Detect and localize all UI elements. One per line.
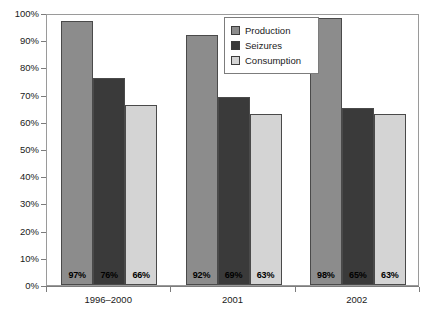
legend-swatch-icon [231, 26, 240, 35]
bar-value-label: 69% [219, 271, 249, 280]
x-axis-category-label: 1996–2000 [48, 295, 168, 305]
bar: 66% [125, 105, 157, 285]
y-axis-tick-label: 50% [1, 145, 39, 155]
bar-value-label: 98% [311, 271, 341, 280]
bar-value-label: 63% [251, 271, 281, 280]
y-axis-tick-label: 80% [1, 63, 39, 73]
y-axis-tick-label: 90% [1, 36, 39, 46]
bar: 63% [250, 114, 282, 285]
bar: 97% [61, 21, 93, 285]
y-axis-tick-label: 20% [1, 227, 39, 237]
legend-item-label: Production [245, 26, 290, 36]
bar: 76% [93, 78, 125, 285]
x-axis-tick [295, 287, 296, 292]
bar-value-label: 97% [62, 271, 92, 280]
x-axis-category-label: 2002 [297, 295, 417, 305]
bar: 63% [374, 114, 406, 285]
bar-value-label: 63% [375, 271, 405, 280]
x-axis-tick [170, 287, 171, 292]
legend-item: Seizures [231, 38, 311, 53]
legend-swatch-icon [231, 41, 240, 50]
legend-item: Consumption [231, 53, 311, 68]
y-axis-tick-label: 100% [1, 9, 39, 19]
bar-value-label: 92% [187, 271, 217, 280]
x-axis-line [46, 286, 419, 287]
y-axis-tick-label: 60% [1, 118, 39, 128]
y-axis-tick-label: 0% [1, 281, 39, 291]
chart-legend: ProductionSeizuresConsumption [224, 17, 319, 74]
legend-item-label: Seizures [245, 41, 282, 51]
bar: 69% [218, 97, 250, 285]
legend-swatch-icon [231, 56, 240, 65]
y-axis-tick-label: 40% [1, 172, 39, 182]
bar-value-label: 66% [126, 271, 156, 280]
bar-value-label: 65% [343, 271, 373, 280]
x-axis-category-label: 2001 [173, 295, 293, 305]
y-axis-tick-label: 10% [1, 254, 39, 264]
x-axis-tick [46, 287, 47, 292]
y-axis-labels: 0%10%20%30%40%50%60%70%80%90%100% [0, 0, 39, 316]
y-axis-tick-label: 70% [1, 91, 39, 101]
legend-item-label: Consumption [245, 56, 301, 66]
y-axis-tick-label: 30% [1, 199, 39, 209]
x-axis-tick [419, 287, 420, 292]
bar-value-label: 76% [94, 271, 124, 280]
bar: 65% [342, 108, 374, 285]
legend-item: Production [231, 23, 311, 38]
bar: 92% [186, 35, 218, 285]
bar-chart: 0%10%20%30%40%50%60%70%80%90%100% 97%76%… [0, 0, 429, 316]
